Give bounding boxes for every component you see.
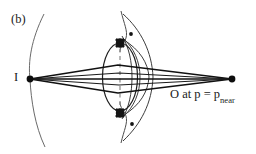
sclera-lower-contour [120,102,127,143]
cornea-arc-middle [124,40,149,115]
object-point-subscript: near [220,95,235,105]
panel-label: (b) [11,13,26,26]
eye-diagram-svg [0,0,256,154]
zonule-dot-top [129,32,133,36]
image-point-dot [27,76,34,83]
ciliary-muscle-marker-bottom [116,108,124,118]
iris-contour [122,36,132,119]
image-point-label: I [14,71,18,84]
eye-ray-diagram-figure: (b) I O at p = pnear [0,0,256,154]
object-point-prefix: O at p = p [170,87,220,101]
object-point-label: O at p = pnear [170,88,235,103]
ciliary-muscle-marker-top [116,38,124,48]
object-point-dot [229,76,236,83]
zonule-dot-bottom [130,122,134,126]
